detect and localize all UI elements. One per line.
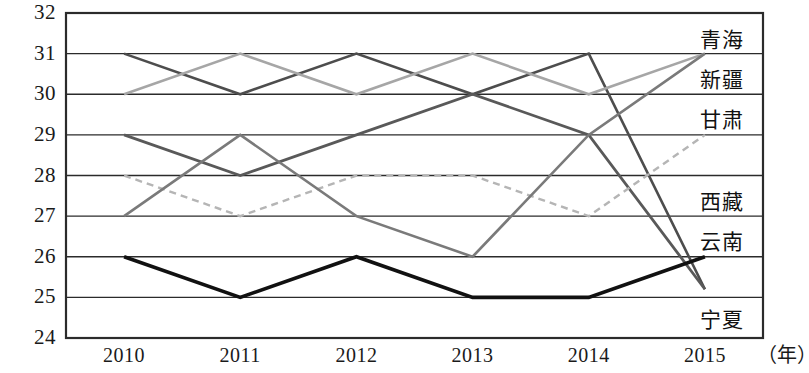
y-tick-label: 29 (8, 124, 56, 145)
legend-label-2: 甘肃 (700, 110, 744, 131)
y-tick-label: 31 (8, 43, 56, 64)
y-tick-label: 30 (8, 83, 56, 104)
x-tick-label: 2010 (79, 345, 169, 365)
x-tick-label: 2012 (311, 345, 401, 365)
x-axis-unit-label: （年） (757, 345, 809, 365)
x-tick-label: 2015 (660, 345, 750, 365)
legend-label-1: 新疆 (700, 70, 744, 91)
series-line-1 (124, 54, 705, 95)
y-tick-label: 32 (8, 2, 56, 23)
y-tick-label: 28 (8, 165, 56, 186)
series-line-5 (124, 257, 705, 298)
y-tick-label: 24 (8, 327, 56, 348)
line-chart: 242526272829303132 201020112012201320142… (0, 0, 809, 373)
legend-label-3: 西藏 (700, 192, 744, 213)
x-tick-label: 2013 (428, 345, 518, 365)
x-tick-label: 2014 (544, 345, 634, 365)
legend-label-4: 云南 (700, 232, 744, 253)
legend-label-0: 青海 (700, 30, 744, 51)
x-tick-label: 2011 (195, 345, 285, 365)
y-tick-label: 27 (8, 205, 56, 226)
y-tick-label: 25 (8, 286, 56, 307)
y-tick-label: 26 (8, 246, 56, 267)
series-line-2 (124, 94, 705, 289)
chart-canvas (0, 0, 809, 373)
legend-label-5: 宁夏 (700, 310, 744, 331)
